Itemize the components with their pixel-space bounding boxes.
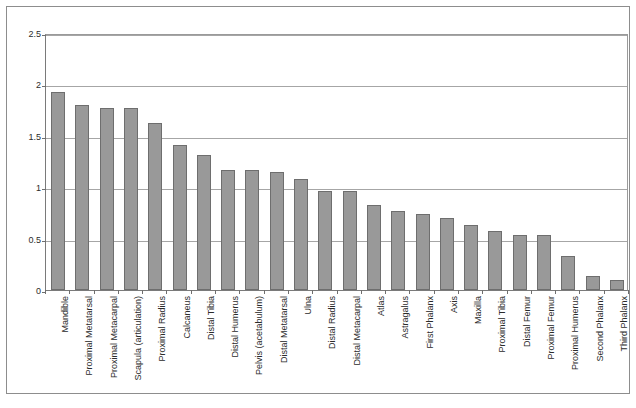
bar [197,155,211,290]
x-axis-category-label-text: Calcaneus [183,296,192,339]
bar [537,235,551,291]
x-axis-tick-mark [409,290,410,294]
x-axis-category-label: Second Phalanx [596,296,605,362]
x-axis-tick-mark [458,290,459,294]
x-axis-category-label-text: Distal Tibia [207,296,216,340]
x-axis-tick-mark [337,290,338,294]
x-axis-category-label: Proximal Metatarsal [85,296,94,376]
x-axis-category-label-text: Proximal Femur [547,296,556,360]
x-axis-tick-mark [555,290,556,294]
x-axis-category-label-text: Axis [450,296,459,313]
x-axis-category-label-text: Atlas [377,296,386,316]
x-axis-category-label: Distal Femur [523,296,532,347]
bar [318,191,332,290]
x-axis-category-label: Third Phalanx [620,296,629,352]
x-axis-category-label: Distal Tibia [207,296,216,340]
y-axis-tick-label: 2 [13,81,41,90]
x-axis-tick-mark [507,290,508,294]
bar [610,280,624,290]
bar [586,276,600,290]
x-axis-tick-mark [239,290,240,294]
x-axis-category-label-text: Distal Femur [523,296,532,347]
bar [100,108,114,290]
x-axis-tick-labels: MandibleProximal MetatarsalProximal Meta… [45,296,628,394]
bar [488,231,502,290]
x-axis-tick-mark [264,290,265,294]
bar [124,108,138,290]
x-axis-category-label: Atlas [377,296,386,316]
bar [367,205,381,290]
x-axis-tick-mark [118,290,119,294]
x-axis-tick-mark [166,290,167,294]
bar [51,92,65,290]
x-axis-category-label: Maxilla [474,296,483,324]
x-axis-category-label: Mandible [61,296,70,333]
x-axis-tick-mark [604,290,605,294]
x-axis-tick-mark [531,290,532,294]
x-axis-category-label-text: First Phalanx [426,296,435,349]
x-axis-tick-mark [215,290,216,294]
x-axis-category-label-text: Third Phalanx [620,296,629,352]
bar [416,214,430,290]
x-axis-category-label: Proximal Humerus [571,296,580,370]
bar [464,225,478,290]
x-axis-tick-mark [361,290,362,294]
x-axis-category-label-text: Second Phalanx [596,296,605,362]
x-axis-category-label: Pelvis (acetabulum) [255,296,264,375]
x-axis-category-label-text: Proximal Metacarpal [110,296,119,378]
bar [391,211,405,290]
x-axis-category-label: Distal Humerus [231,296,240,358]
x-axis-category-label-text: Astragalus [401,296,410,339]
bar [440,218,454,290]
x-axis-tick-mark [312,290,313,294]
bar [173,145,187,290]
x-axis-tick-mark [482,290,483,294]
x-axis-category-label: Scapula (articulation) [134,296,143,381]
x-axis-category-label-text: Distal Radius [328,296,337,349]
x-axis-category-label: Ulna [304,296,313,315]
bar [561,256,575,290]
x-axis-category-label-text: Distal Metatarsal [280,296,289,363]
bar [294,179,308,290]
x-axis-category-label: Proximal Radius [158,296,167,362]
x-axis-category-label-text: Pelvis (acetabulum) [255,296,264,375]
bar [75,105,89,290]
y-axis-tick-label: 2.5 [13,30,41,39]
x-axis-category-label: Axis [450,296,459,313]
x-axis-tick-mark [385,290,386,294]
x-axis-tick-mark [288,290,289,294]
chart-plot-wrapper: 00.511.522.5 MandibleProximal Metatarsal… [7,7,631,395]
y-axis-tick-labels: 00.511.522.5 [7,7,41,395]
y-axis-tick-label: 0 [13,287,41,296]
x-axis-tick-mark [45,290,46,294]
x-axis-category-label: Astragalus [401,296,410,339]
x-axis-tick-mark [94,290,95,294]
x-axis-tick-marks [45,290,628,295]
x-axis-category-label: Proximal Tibia [498,296,507,353]
x-axis-category-label-text: Distal Metacarpal [353,296,362,366]
x-axis-category-label-text: Mandible [61,296,70,333]
bar [343,191,357,290]
plot-area [45,34,628,291]
x-axis-category-label-text: Proximal Humerus [571,296,580,370]
x-axis-category-label: Calcaneus [183,296,192,339]
x-axis-tick-mark [434,290,435,294]
x-axis-category-label: Distal Metatarsal [280,296,289,363]
bar [513,235,527,291]
x-axis-category-label-text: Proximal Tibia [498,296,507,353]
y-axis-tick-label: 1.5 [13,132,41,141]
x-axis-category-label: Distal Metacarpal [353,296,362,366]
bar [148,123,162,290]
x-axis-tick-mark [142,290,143,294]
x-axis-category-label: Proximal Metacarpal [110,296,119,378]
x-axis-category-label-text: Scapula (articulation) [134,296,143,381]
x-axis-category-label: First Phalanx [426,296,435,349]
chart-figure-frame: 00.511.522.5 MandibleProximal Metatarsal… [6,6,630,394]
bar [245,170,259,290]
bar [221,170,235,290]
x-axis-category-label-text: Proximal Metatarsal [85,296,94,376]
x-axis-tick-mark [69,290,70,294]
y-axis-tick-label: 1 [13,184,41,193]
x-axis-category-label: Proximal Femur [547,296,556,360]
x-axis-category-label-text: Maxilla [474,296,483,324]
